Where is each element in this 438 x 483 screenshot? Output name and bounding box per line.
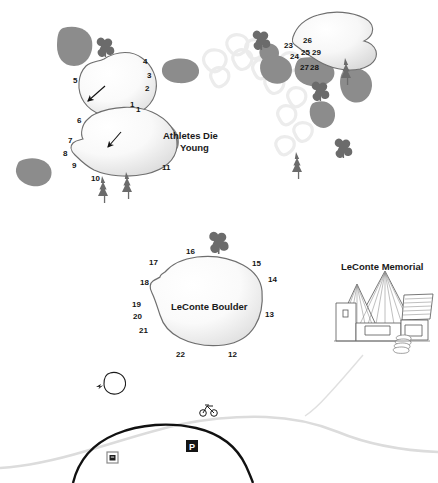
restroom-sign [107,452,118,463]
problem-number: 1 [136,105,141,114]
problem-number: 28 [310,63,319,72]
problem-number: 5 [73,76,78,85]
problem-number: 3 [147,71,152,80]
area-label-leconte-memorial: LeConte Memorial [341,261,423,272]
problem-number: 29 [312,48,321,57]
map-svg: 1 2 3 4 5 1 6 7 8 9 10 11 Athletes Die Y… [0,0,438,483]
parking-sign-label: P [189,442,195,452]
problem-number: 1 [130,100,135,109]
problem-number: 7 [68,136,73,145]
parking-sign: P [186,440,198,452]
problem-number: 15 [252,259,261,268]
problem-number: 6 [77,116,82,125]
problem-number: 2 [145,84,150,93]
topo-map-canvas: 1 2 3 4 5 1 6 7 8 9 10 11 Athletes Die Y… [0,0,438,483]
problem-number: 21 [139,326,148,335]
problem-number: 16 [186,247,195,256]
problem-number: 22 [176,350,185,359]
problem-number: 4 [143,57,148,66]
problem-number: 14 [268,275,277,284]
problem-number: 23 [284,41,293,50]
problem-number: 27 [300,63,309,72]
problem-number: 24 [290,52,299,61]
problem-number: 18 [140,278,149,287]
problem-number: 11 [162,163,171,172]
problem-number: 8 [63,149,68,158]
problem-number: 9 [72,161,77,170]
problem-number: 25 [301,48,310,57]
rock-blob [162,59,199,84]
problem-number: 10 [91,174,100,183]
area-label-line2: Young [180,142,209,153]
problem-number: 12 [228,350,237,359]
problem-number: 17 [149,258,158,267]
problem-number: 20 [133,312,142,321]
area-label-leconte-boulder: LeConte Boulder [171,301,248,312]
problem-number: 13 [265,310,274,319]
area-label-line1: Athletes Die [163,130,218,141]
problem-number: 26 [303,36,312,45]
problem-number: 19 [132,300,141,309]
